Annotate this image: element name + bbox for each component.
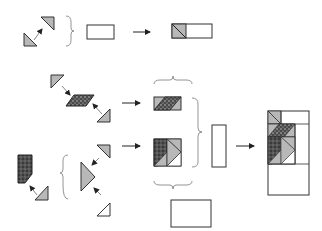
wide-white-rectangle [171, 200, 211, 227]
step-1 [24, 16, 212, 46]
gray-triangle-lower-left [24, 33, 37, 46]
step-2a [51, 75, 140, 122]
gray-triangle-small [35, 186, 48, 200]
brace-icon [66, 16, 74, 46]
dark-pentagon [18, 155, 32, 183]
arrow-join-icon [62, 86, 70, 95]
step-1-result-unit [172, 24, 212, 38]
arrow-join-icon [34, 29, 42, 40]
arrow-join-icon [93, 104, 102, 114]
final-block [268, 111, 309, 195]
gray-triangle-top [97, 145, 110, 158]
tall-white-rectangle [212, 125, 226, 167]
arrow-join-icon [94, 188, 101, 195]
white-triangle [97, 203, 110, 216]
arrow-join-icon [92, 158, 99, 165]
gray-triangle-upper-right [41, 17, 54, 30]
square-unit-with-flying-geese [154, 139, 181, 166]
white-rectangle [87, 25, 114, 39]
dark-parallelogram [66, 95, 94, 106]
arrow-join-icon [30, 186, 37, 195]
brace-icon [60, 155, 68, 199]
large-gray-triangle [81, 162, 95, 191]
brace-icon [154, 76, 192, 84]
brace-icon [192, 98, 202, 167]
brace-icon [154, 181, 192, 189]
parallelogram-strip-unit [154, 97, 181, 110]
step-3 [154, 76, 254, 227]
step-2b [18, 145, 140, 216]
quilt-assembly-diagram [0, 0, 322, 231]
